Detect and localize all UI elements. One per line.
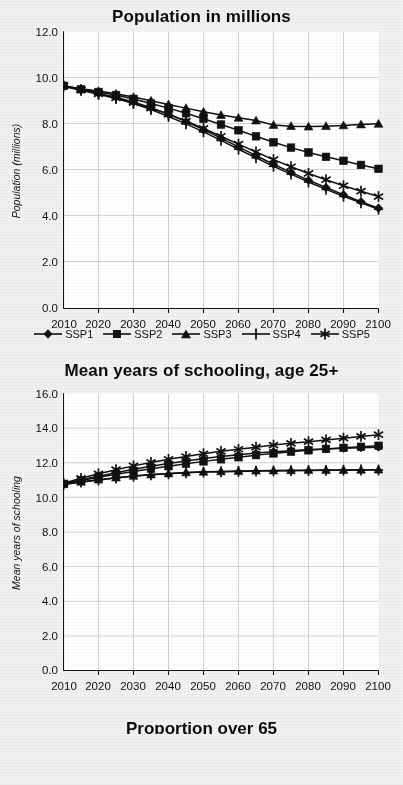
- x-tick-schooling-2060: 2060: [225, 680, 251, 692]
- y-tick-schooling-14: 14.0: [10, 422, 58, 434]
- y-tick-population-12: 12.0: [10, 26, 58, 38]
- y-tick-schooling-12: 12.0: [10, 457, 58, 469]
- y-tick-population-6: 6.0: [10, 164, 58, 176]
- plus-icon: [241, 327, 271, 341]
- y-tick-schooling-6: 6.0: [10, 561, 58, 573]
- y-tick-schooling-16: 16.0: [10, 388, 58, 400]
- y-tick-schooling-2: 2.0: [10, 630, 58, 642]
- legend-label-ssp1: SSP1: [65, 328, 93, 340]
- x-tick-schooling-2040: 2040: [155, 680, 181, 692]
- figure: Population in millions Population (milli…: [0, 0, 403, 748]
- y-tick-population-4: 4.0: [10, 210, 58, 222]
- chart-title-schooling: Mean years of schooling, age 25+: [0, 348, 403, 381]
- x-tick-schooling-2080: 2080: [295, 680, 321, 692]
- diamond-icon: [33, 327, 63, 341]
- legend-label-ssp4: SSP4: [273, 328, 301, 340]
- x-tick-schooling-2090: 2090: [330, 680, 356, 692]
- legend-item-ssp3[interactable]: SSP3: [171, 327, 231, 341]
- legend-item-ssp4[interactable]: SSP4: [241, 327, 301, 341]
- chart-legend: SSP1 SSP2 SSP3: [0, 327, 403, 341]
- legend-item-ssp2[interactable]: SSP2: [102, 327, 162, 341]
- plot-area-population: Population (millions) 12.0 10.0 8.0 6.0 …: [0, 26, 403, 316]
- x-tick-schooling-2050: 2050: [190, 680, 216, 692]
- x-tick-schooling-2070: 2070: [260, 680, 286, 692]
- legend-item-ssp1[interactable]: SSP1: [33, 327, 93, 341]
- asterisk-icon: [310, 327, 340, 341]
- y-tick-schooling-0: 0.0: [10, 664, 58, 676]
- legend-label-ssp5: SSP5: [342, 328, 370, 340]
- panel-population: Population in millions Population (milli…: [0, 0, 403, 348]
- y-tick-population-10: 10.0: [10, 72, 58, 84]
- y-tick-population-2: 2.0: [10, 256, 58, 268]
- y-tick-schooling-10: 10.0: [10, 492, 58, 504]
- y-tick-schooling-8: 8.0: [10, 526, 58, 538]
- schooling-plot-svg: [63, 388, 403, 680]
- next-chart-title-partial: Proportion over 65: [0, 720, 403, 734]
- square-icon: [102, 327, 132, 341]
- x-tick-schooling-2010: 2010: [51, 680, 77, 692]
- plot-area-schooling: Mean years of schooling 16.0 14.0 12.0 1…: [0, 388, 403, 688]
- population-plot-svg: [63, 26, 403, 318]
- legend-item-ssp5[interactable]: SSP5: [310, 327, 370, 341]
- y-tick-population-8: 8.0: [10, 118, 58, 130]
- chart-title-population: Population in millions: [0, 0, 403, 27]
- x-tick-schooling-2100: 2100: [365, 680, 391, 692]
- panel-schooling: Mean years of schooling, age 25+ Mean ye…: [0, 348, 403, 748]
- y-tick-population-0: 0.0: [10, 302, 58, 314]
- triangle-icon: [171, 327, 201, 341]
- legend-label-ssp3: SSP3: [203, 328, 231, 340]
- y-tick-schooling-4: 4.0: [10, 595, 58, 607]
- x-tick-schooling-2020: 2020: [85, 680, 111, 692]
- x-tick-schooling-2030: 2030: [120, 680, 146, 692]
- legend-label-ssp2: SSP2: [134, 328, 162, 340]
